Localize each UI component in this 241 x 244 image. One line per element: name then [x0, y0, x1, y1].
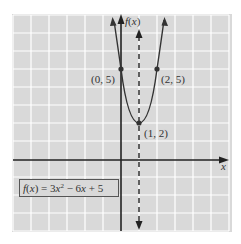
parabola-graph: x f(x) (0, 5) (2, 5) (1, 2) f(x) = 3x2 −…: [0, 0, 241, 244]
equation-box: f(x) = 3x2 − 6x + 5: [20, 180, 119, 197]
vertex-point: [136, 120, 141, 125]
point-0-5: [118, 66, 123, 71]
vertex-label: (1, 2): [144, 127, 168, 140]
point-2-5: [154, 66, 159, 71]
equation-label: f(x) = 3x2 − 6x + 5: [23, 182, 104, 195]
point-label-2-5: (2, 5): [161, 73, 185, 86]
point-label-0-5: (0, 5): [91, 73, 115, 86]
x-axis-label: x: [220, 160, 226, 172]
y-axis-label: f(x): [125, 15, 141, 28]
